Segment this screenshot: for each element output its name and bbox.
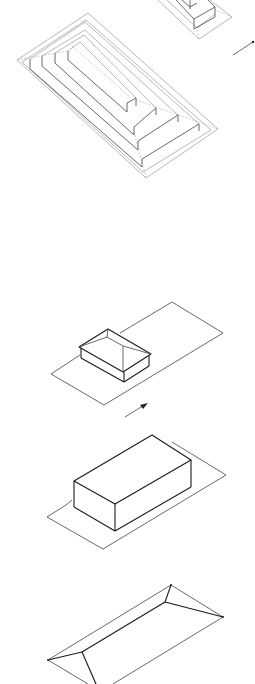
isometric-diagram — [0, 0, 255, 684]
box-on-lot — [47, 435, 226, 549]
house — [79, 329, 151, 382]
stepped-pyramid — [17, 13, 218, 178]
terrace-3 — [55, 35, 156, 135]
stepped-pyramid-partial — [158, 0, 232, 39]
direction-arrow-top — [233, 41, 254, 55]
hip-roof-house-on-lot — [51, 302, 223, 405]
box-volume — [74, 435, 191, 531]
direction-arrow-middle — [125, 403, 148, 417]
terrace-1 — [30, 22, 199, 167]
hip-roof — [47, 584, 224, 684]
terrace-2 — [42, 30, 178, 150]
